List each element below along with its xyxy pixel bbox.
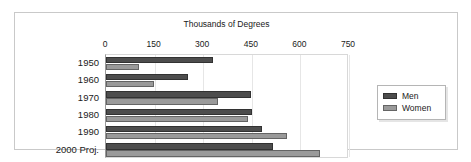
bar-group-1950: [106, 55, 347, 72]
y-axis-label-1970: 1970: [78, 89, 99, 106]
bar-group-2000-proj-: [106, 142, 347, 159]
x-tick-label-300: 300: [195, 39, 209, 49]
legend-swatch-women: [383, 105, 397, 111]
y-axis-label-2000-proj-: 2000 Proj.: [56, 141, 99, 158]
bar-women-1960[interactable]: [106, 81, 154, 88]
legend-item-women[interactable]: Women: [383, 102, 440, 114]
y-axis-label-1960: 1960: [78, 71, 99, 88]
bar-group-1960: [106, 72, 347, 89]
bar-men-1970[interactable]: [106, 91, 251, 98]
legend-swatch-men: [383, 93, 397, 99]
bar-women-1980[interactable]: [106, 116, 248, 123]
chart-legend: Men Women: [377, 85, 446, 120]
y-axis-label-1980: 1980: [78, 106, 99, 123]
bar-men-1950[interactable]: [106, 57, 213, 64]
chart-frame: Thousands of Degrees 0150300450600750 19…: [14, 12, 458, 150]
x-axis-tick-labels: 0150300450600750: [15, 39, 471, 51]
bar-women-1950[interactable]: [106, 64, 139, 71]
x-axis-title: Thousands of Degrees: [105, 19, 348, 29]
y-axis-category-labels: 195019601970198019902000 Proj.: [15, 54, 102, 158]
x-tick-label-150: 150: [147, 39, 161, 49]
bar-group-1980: [106, 107, 347, 124]
bar-women-1970[interactable]: [106, 98, 218, 105]
bar-men-2000-proj-[interactable]: [106, 143, 273, 150]
legend-label-men: Men: [402, 91, 419, 101]
x-tick-label-0: 0: [103, 39, 108, 49]
legend-item-men[interactable]: Men: [383, 90, 440, 102]
legend-label-women: Women: [402, 103, 431, 113]
bar-group-1990: [106, 124, 347, 141]
bar-group-1970: [106, 90, 347, 107]
plot-area: [105, 54, 348, 158]
x-tick-label-750: 750: [341, 39, 355, 49]
x-tick-label-600: 600: [292, 39, 306, 49]
y-axis-label-1990: 1990: [78, 123, 99, 140]
bar-men-1990[interactable]: [106, 126, 262, 133]
x-tick-label-450: 450: [244, 39, 258, 49]
bar-men-1960[interactable]: [106, 74, 188, 81]
y-axis-label-1950: 1950: [78, 54, 99, 71]
bar-women-1990[interactable]: [106, 133, 287, 140]
gridline-750: [349, 55, 350, 157]
bar-women-2000-proj-[interactable]: [106, 150, 320, 157]
bar-men-1980[interactable]: [106, 109, 252, 116]
